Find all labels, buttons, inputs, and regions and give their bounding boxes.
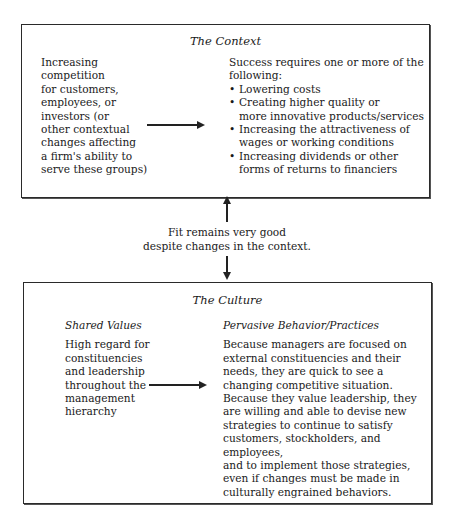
down-arrow-icon bbox=[226, 256, 228, 274]
context-left-text: Increasing competition for customers, em… bbox=[41, 56, 147, 177]
list-item: Creating higher quality ormore innovativ… bbox=[229, 96, 424, 123]
context-box: The Context Increasing competition for c… bbox=[21, 24, 430, 198]
pervasive-behavior-heading: Pervasive Behavior/Practices bbox=[223, 319, 431, 332]
pervasive-behavior-column: Pervasive Behavior/Practices Because man… bbox=[223, 319, 431, 499]
shared-values-heading: Shared Values bbox=[65, 319, 150, 332]
right-arrow-icon bbox=[149, 384, 205, 386]
list-item: Lowering costs bbox=[229, 83, 424, 96]
list-item: Increasing dividends or otherforms of re… bbox=[229, 150, 424, 177]
culture-box: The Culture Shared Values High regard fo… bbox=[23, 282, 432, 504]
list-item: Increasing the attractiveness ofwages or… bbox=[229, 123, 424, 150]
fit-caption: Fit remains very good despite changes in… bbox=[130, 225, 324, 253]
context-right-text: Success requires one or more of the foll… bbox=[229, 56, 424, 177]
success-requirements-list: Lowering costs Creating higher quality o… bbox=[229, 83, 424, 177]
culture-title: The Culture bbox=[24, 293, 431, 307]
right-arrow-icon bbox=[147, 124, 203, 126]
shared-values-column: Shared Values High regard for constituen… bbox=[65, 319, 150, 419]
context-title: The Context bbox=[22, 34, 429, 48]
up-arrow-icon bbox=[226, 202, 228, 222]
